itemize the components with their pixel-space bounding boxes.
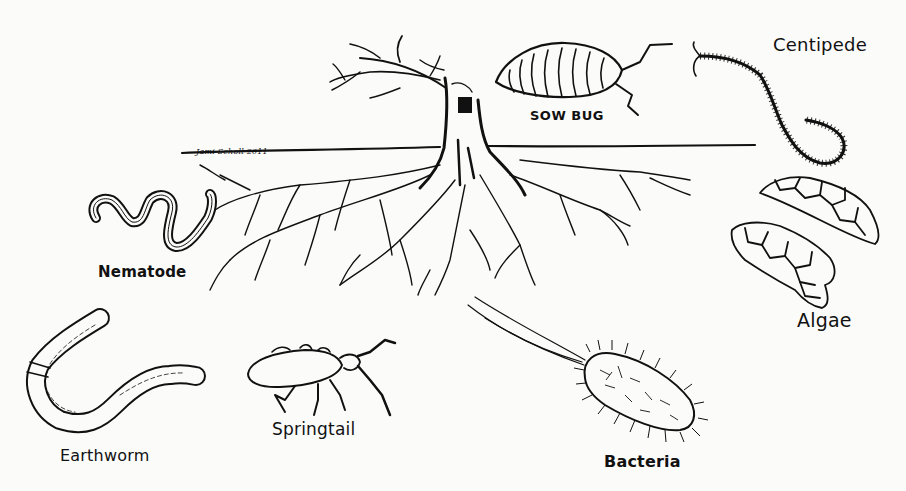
label-algae: Algae xyxy=(797,309,852,331)
springtail-icon xyxy=(248,340,395,415)
line-art xyxy=(0,0,906,491)
label-sow-bug: SOW BUG xyxy=(530,108,604,123)
label-bacteria: Bacteria xyxy=(604,452,681,471)
earthworm-icon xyxy=(27,318,196,423)
label-springtail: Springtail xyxy=(272,419,355,439)
label-centipede: Centipede xyxy=(773,34,867,55)
sow-bug-icon xyxy=(496,43,672,115)
label-earthworm: Earthworm xyxy=(60,446,149,465)
soil-organisms-diagram: Jami Scholl 2011 SOW BUG Centipede Nemat… xyxy=(0,0,906,491)
roots-icon xyxy=(200,160,690,295)
algae-icon xyxy=(732,177,879,308)
bacteria-icon xyxy=(468,297,708,442)
tree-trunk-icon xyxy=(330,36,525,195)
artist-signature: Jami Scholl 2011 xyxy=(196,147,268,156)
label-nematode: Nematode xyxy=(98,263,186,281)
nematode-icon xyxy=(93,194,212,247)
